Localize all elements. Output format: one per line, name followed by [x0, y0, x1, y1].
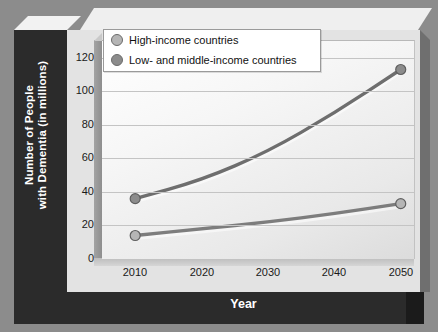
panel-shadow-right	[420, 30, 430, 292]
y-tick-label: 100	[60, 84, 94, 96]
gridline	[102, 125, 414, 126]
y-axis-tick-labels: 020406080100120	[60, 30, 94, 292]
x-tick-label: 2020	[179, 266, 225, 278]
plot-floor	[94, 258, 414, 266]
legend-label: High-income countries	[129, 34, 238, 46]
y-tick-label: 20	[60, 218, 94, 230]
frame-bevel-top-left	[14, 16, 81, 30]
y-tick-label: 0	[60, 252, 94, 264]
y-tick-label: 120	[60, 51, 94, 63]
data-point-marker[interactable]	[396, 199, 406, 209]
data-point-marker[interactable]	[130, 194, 140, 204]
legend-label: Low- and middle-income countries	[129, 54, 297, 66]
chart-screenshot: Number of People with Dementia (in milli…	[0, 0, 438, 332]
x-tick-label: 2030	[245, 266, 291, 278]
legend-marker-icon	[111, 34, 123, 46]
x-tick-label: 2040	[311, 266, 357, 278]
plot-wall-left	[94, 40, 102, 265]
plot-canvas	[102, 40, 415, 259]
chart-legend: High-income countries Low- and middle-in…	[103, 29, 321, 72]
series-line	[135, 70, 401, 199]
data-point-marker[interactable]	[130, 231, 140, 241]
y-tick-label: 60	[60, 151, 94, 163]
series-line	[135, 204, 401, 236]
legend-marker-icon	[111, 54, 123, 66]
x-tick-label: 2050	[378, 266, 424, 278]
x-axis-title: Year	[67, 297, 420, 311]
legend-item-low-middle-income[interactable]: Low- and middle-income countries	[104, 50, 320, 70]
plot-area	[94, 40, 414, 265]
gridline	[102, 225, 414, 226]
series-layer	[102, 41, 414, 259]
legend-item-high-income[interactable]: High-income countries	[104, 30, 320, 50]
frame-bevel-top-right	[80, 8, 432, 30]
data-point-marker[interactable]	[396, 65, 406, 75]
y-tick-label: 80	[60, 118, 94, 130]
gridline	[102, 91, 414, 92]
gridline	[102, 158, 414, 159]
x-axis-tick-labels: 20102020203020402050	[67, 266, 420, 286]
y-tick-label: 40	[60, 185, 94, 197]
gridline	[102, 192, 414, 193]
x-tick-label: 2010	[112, 266, 158, 278]
